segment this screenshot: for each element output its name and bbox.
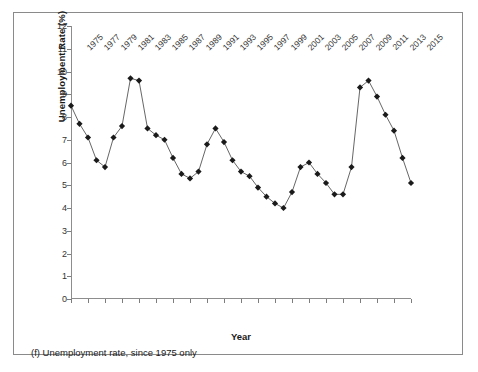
data-point-marker bbox=[289, 189, 295, 195]
data-point-marker bbox=[161, 137, 167, 143]
y-tick-label: 0 bbox=[62, 294, 67, 304]
data-point-marker bbox=[280, 205, 286, 211]
figure-frame: Unemployment Rate (%) 0123456789101112 1… bbox=[13, 12, 463, 355]
data-point-marker bbox=[204, 141, 210, 147]
y-tick-label: 5 bbox=[62, 180, 67, 190]
y-tick-label: 9 bbox=[62, 89, 67, 99]
data-point-marker bbox=[340, 191, 346, 197]
data-point-marker bbox=[136, 78, 142, 84]
y-tick-label: 1 bbox=[62, 271, 67, 281]
data-point-marker bbox=[348, 164, 354, 170]
data-point-marker bbox=[382, 112, 388, 118]
data-point-marker bbox=[399, 155, 405, 161]
data-point-marker bbox=[85, 134, 91, 140]
y-tick-label: 4 bbox=[62, 203, 67, 213]
data-point-marker bbox=[212, 125, 218, 131]
y-tick-label: 12 bbox=[57, 21, 67, 31]
data-point-marker bbox=[127, 75, 133, 81]
data-point-marker bbox=[178, 171, 184, 177]
data-point-marker bbox=[68, 103, 74, 109]
data-point-marker bbox=[76, 121, 82, 127]
y-tick-label: 11 bbox=[58, 44, 67, 54]
figure-caption: (f) Unemployment rate, since 1975 only bbox=[31, 347, 197, 358]
data-point-marker bbox=[221, 139, 227, 145]
y-tick-label: 3 bbox=[62, 226, 67, 236]
data-series-unemployment-rate bbox=[71, 26, 425, 313]
y-tick-label: 7 bbox=[62, 135, 67, 145]
y-tick-label: 8 bbox=[62, 112, 67, 122]
y-tick-label: 10 bbox=[57, 67, 67, 77]
x-tick-label: 2015 bbox=[425, 32, 445, 52]
y-tick-label: 2 bbox=[62, 249, 67, 259]
data-point-marker bbox=[391, 128, 397, 134]
x-axis-title: Year bbox=[71, 331, 411, 342]
y-tick-label: 6 bbox=[62, 158, 67, 168]
plot-region: 0123456789101112 19751977197919811983198… bbox=[71, 26, 411, 299]
data-point-marker bbox=[408, 180, 414, 186]
data-point-marker bbox=[374, 93, 380, 99]
series-line bbox=[71, 78, 411, 208]
data-point-marker bbox=[170, 155, 176, 161]
data-point-marker bbox=[297, 164, 303, 170]
unemployment-line-chart: Unemployment Rate (%) 0123456789101112 1… bbox=[14, 13, 464, 356]
